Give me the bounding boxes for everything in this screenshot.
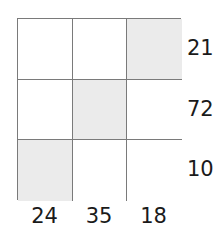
cell-r1-c2 [127,80,182,140]
cell-r0-c2-shaded [127,19,182,80]
cell-r2-c2 [127,140,182,201]
cell-r1-c1-shaded [73,80,127,140]
col-label-0: 24 [17,204,72,228]
row-label-1: 72 [187,97,219,121]
cell-r2-c0-shaded [18,140,73,201]
grid-3x3 [17,18,181,200]
cell-r0-c0 [18,19,73,80]
cell-r2-c1 [73,140,127,201]
row-label-0: 21 [187,36,219,60]
cell-r0-c1 [73,19,127,80]
cell-r1-c0 [18,80,73,140]
col-label-1: 35 [72,204,126,228]
row-label-2: 10 [187,157,219,181]
col-label-2: 18 [126,204,181,228]
